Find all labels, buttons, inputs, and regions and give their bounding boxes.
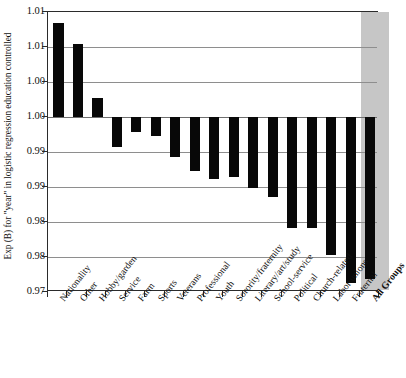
bar-all-groups <box>365 117 375 279</box>
gridline-1-005 <box>48 82 377 83</box>
scan-artifact-text <box>48 0 378 2</box>
y-tick-label-8: 0.97 <box>5 286 45 296</box>
bar-labor-unions <box>326 117 336 255</box>
y-tick-label-2: 1.00 <box>5 76 45 86</box>
bar-other <box>73 44 83 118</box>
y-tick-label-4: 0.99 <box>5 146 45 156</box>
x-axis-label-group: NationalityOtherHobby/gardenServiceFarmS… <box>0 297 390 378</box>
bar-service <box>112 117 122 147</box>
y-tick-label-1: 1.01 <box>5 41 45 51</box>
bar-hobby-garden <box>92 98 102 117</box>
plot-inner <box>48 12 377 290</box>
bar-literary-art-study <box>248 117 258 188</box>
gridline-0-98 <box>48 257 377 258</box>
plot-area <box>47 11 378 291</box>
y-tick-label-3: 1.00 <box>5 111 45 121</box>
bar-church-related <box>307 117 317 228</box>
bar-nationality <box>53 23 63 118</box>
y-tick-label-7: 0.98 <box>5 251 45 261</box>
bar-veterans <box>170 117 180 157</box>
y-tick-label-5: 0.99 <box>5 181 45 191</box>
bar-sports <box>151 117 161 136</box>
bar-youth <box>209 117 219 179</box>
bar-professional <box>190 117 200 171</box>
gridline-1-01 <box>48 47 377 48</box>
bar-political <box>287 117 297 228</box>
y-tick-label-6: 0.98 <box>5 216 45 226</box>
bar-sorority-fraternity <box>229 117 239 177</box>
y-tick-label-0: 1.01 <box>5 6 45 16</box>
bar-school-service <box>268 117 278 197</box>
bar-farm <box>131 117 141 132</box>
